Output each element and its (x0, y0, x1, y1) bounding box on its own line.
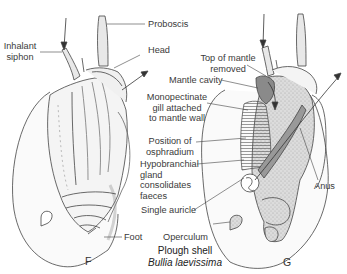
label-position-of-osphradium: Position of osphradium (143, 136, 197, 157)
label-osphradium-line2: osphradium (143, 147, 197, 158)
label-operculum: Operculum (163, 232, 208, 243)
label-gill-line2: gill attached (144, 103, 210, 114)
panel-letter-g: G (283, 256, 291, 268)
label-gill-line3: to mantle wall (144, 113, 210, 124)
diagram-figure: Proboscis Inhalant siphon Head Foot Top … (0, 0, 347, 274)
caption-common-name: Plough shell (140, 245, 230, 257)
label-top-of-mantle-line2: removed (194, 64, 262, 75)
label-hypobranchial-gland: Hypobranchial gland consolidates faeces (140, 159, 199, 201)
label-gill-line1: Monopectinate (144, 92, 210, 103)
label-foot: Foot (124, 232, 142, 243)
label-top-of-mantle-removed: Top of mantle removed (194, 53, 262, 74)
label-anus: Anus (314, 181, 335, 192)
label-mantle-cavity: Mantle cavity (169, 75, 223, 86)
label-top-of-mantle-line1: Top of mantle (194, 53, 262, 64)
figure-caption: Plough shell Bullia laevissima (140, 245, 230, 269)
label-hypo-line3: consolidates (140, 180, 199, 191)
label-inhalant-siphon-line1: Inhalant (0, 41, 40, 52)
label-proboscis: Proboscis (148, 19, 188, 30)
label-hypo-line1: Hypobranchial (140, 159, 199, 170)
panel-letter-f: F (85, 255, 91, 267)
label-single-auricle: Single auricle (141, 205, 196, 216)
label-head: Head (148, 45, 170, 56)
label-monopectinate-gill: Monopectinate gill attached to mantle wa… (144, 92, 210, 124)
label-hypo-line4: faeces (140, 191, 199, 202)
label-inhalant-siphon: Inhalant siphon (0, 41, 40, 62)
label-hypo-line2: gland (140, 170, 199, 181)
label-inhalant-siphon-line2: siphon (0, 52, 40, 63)
caption-species-name: Bullia laevissima (140, 257, 230, 269)
label-osphradium-line1: Position of (143, 136, 197, 147)
